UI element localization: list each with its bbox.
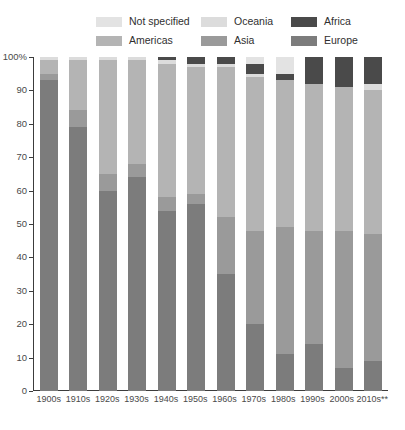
bar-segment-europe[interactable] [128,177,146,391]
bar-slot [93,57,123,391]
bar-segment-africa[interactable] [305,57,323,84]
bar-slot [300,57,330,391]
bar-segment-americas[interactable] [364,90,382,234]
y-axis-tick-label: 20 [16,319,27,329]
legend-label-americas: Americas [129,35,173,46]
bar-segment-not-specified[interactable] [276,57,294,74]
y-axis-tick-mark [29,157,33,158]
legend-label-not-specified: Not specified [129,16,190,27]
bar-segment-europe[interactable] [187,204,205,391]
legend-item-asia[interactable]: Asia [201,35,291,46]
x-axis-labels: 1900s1910s1920s1930s1940s1950s1960s1970s… [34,394,388,405]
bar-segment-asia[interactable] [187,194,205,204]
y-axis-tick-label: 10 [16,353,27,363]
bar-segment-europe[interactable] [364,361,382,391]
stacked-bar[interactable] [128,57,146,391]
stacked-bar[interactable] [276,57,294,391]
bar-segment-asia[interactable] [99,174,117,191]
legend-item-americas[interactable]: Americas [96,35,201,46]
bar-segment-europe[interactable] [99,191,117,391]
y-axis-tick-mark [29,224,33,225]
y-axis-tick-mark [29,257,33,258]
bar-segment-oceania[interactable] [364,84,382,91]
legend-row: Not specified Oceania Africa [96,12,396,31]
bar-segment-africa[interactable] [364,57,382,84]
y-axis-tick-mark [29,324,33,325]
bar-segment-asia[interactable] [40,74,58,81]
stacked-bar[interactable] [99,57,117,391]
bar-segment-americas[interactable] [187,67,205,194]
stacked-bar[interactable] [187,57,205,391]
bar-segment-americas[interactable] [99,60,117,174]
bar-slot [182,57,212,391]
x-axis-tick-label: 1940s [151,394,180,405]
stacked-bar[interactable] [364,57,382,391]
bar-segment-europe[interactable] [217,274,235,391]
bar-segment-asia[interactable] [276,227,294,354]
y-axis-tick-label: 90 [16,85,27,95]
bar-slot [123,57,153,391]
bar-slot [64,57,94,391]
bar-segment-americas[interactable] [128,60,146,164]
legend-item-not-specified[interactable]: Not specified [96,16,201,27]
bar-segment-americas[interactable] [335,87,353,231]
bar-segment-europe[interactable] [305,344,323,391]
bar-segment-africa[interactable] [335,57,353,87]
stacked-bar[interactable] [246,57,264,391]
legend-row: Americas Asia Europe [96,31,396,50]
bar-segment-asia[interactable] [305,231,323,345]
stacked-bar[interactable] [69,57,87,391]
x-axis-tick-label: 1920s [93,394,122,405]
legend-label-africa: Africa [324,16,351,27]
bar-segment-americas[interactable] [40,60,58,73]
bar-segment-americas[interactable] [246,77,264,231]
bar-segment-not-specified[interactable] [246,57,264,64]
bar-segment-europe[interactable] [158,211,176,391]
bar-segment-asia[interactable] [69,110,87,127]
bar-segment-americas[interactable] [158,64,176,198]
bar-segment-asia[interactable] [364,234,382,361]
x-axis-tick-label: 1950s [181,394,210,405]
bar-group [34,57,388,391]
stacked-bar[interactable] [158,57,176,391]
legend-item-oceania[interactable]: Oceania [201,16,291,27]
bar-segment-europe[interactable] [69,127,87,391]
bar-segment-asia[interactable] [246,231,264,325]
chart-root: Not specified Oceania Africa Americas As… [0,0,405,430]
x-axis-tick-label: 1960s [210,394,239,405]
bar-segment-europe[interactable] [40,80,58,391]
bar-segment-asia[interactable] [335,231,353,368]
bar-segment-asia[interactable] [217,217,235,274]
bar-segment-africa[interactable] [217,57,235,64]
x-axis-tick-label: 2010s** [356,394,388,405]
y-axis-tick-mark [29,358,33,359]
bar-segment-asia[interactable] [128,164,146,177]
bar-segment-americas[interactable] [276,80,294,227]
stacked-bar[interactable] [40,57,58,391]
stacked-bar[interactable] [217,57,235,391]
legend-swatch-americas [96,36,122,46]
stacked-bar[interactable] [305,57,323,391]
bar-slot [34,57,64,391]
bar-segment-africa[interactable] [246,64,264,74]
stacked-bar[interactable] [335,57,353,391]
x-axis-tick-label: 1970s [239,394,268,405]
y-axis-tick-mark [29,291,33,292]
bar-segment-asia[interactable] [158,197,176,210]
y-axis-tick-mark [29,391,33,392]
y-axis-tick-label: 30 [16,286,27,296]
bar-segment-africa[interactable] [187,57,205,64]
bar-segment-europe[interactable] [276,354,294,391]
legend-swatch-europe [291,36,317,46]
bar-segment-africa[interactable] [276,74,294,81]
bar-segment-europe[interactable] [246,324,264,391]
y-axis-tick-label: 100% [3,52,27,62]
bar-segment-americas[interactable] [69,60,87,110]
chart-legend: Not specified Oceania Africa Americas As… [96,12,396,50]
legend-item-africa[interactable]: Africa [291,16,381,27]
bar-segment-americas[interactable] [305,84,323,231]
bar-slot [211,57,241,391]
legend-item-europe[interactable]: Europe [291,35,381,46]
bar-segment-europe[interactable] [335,368,353,391]
bar-segment-americas[interactable] [217,67,235,217]
